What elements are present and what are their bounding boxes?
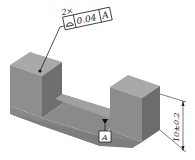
height-dimension: 10±0.2 bbox=[160, 94, 186, 152]
technical-drawing: 0.04 A 2× A 10±0.2 bbox=[0, 0, 195, 160]
left-block bbox=[10, 52, 62, 118]
datum-label: A bbox=[101, 133, 108, 142]
dimension-value: 10±0.2 bbox=[172, 112, 181, 142]
feature-control-frame: 0.04 A 2× bbox=[60, 0, 113, 30]
